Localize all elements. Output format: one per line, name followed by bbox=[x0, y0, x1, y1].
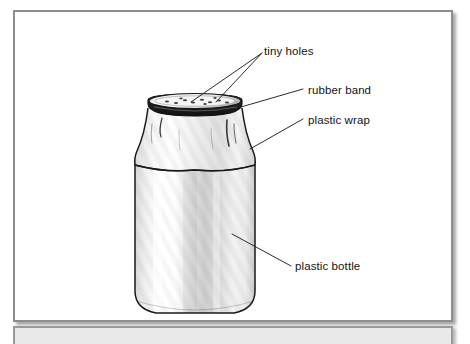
leader-tiny-holes-right bbox=[216, 53, 262, 102]
label-plastic-wrap: plastic wrap bbox=[308, 114, 370, 126]
screenshot-root: tiny holes rubber band plastic wrap plas… bbox=[0, 0, 470, 344]
label-rubber-band: rubber band bbox=[308, 84, 371, 96]
leader-rubber-band bbox=[241, 89, 303, 107]
wrap-top-surface bbox=[149, 94, 241, 109]
leader-plastic-wrap bbox=[250, 119, 303, 149]
bottom-grey-band bbox=[13, 326, 453, 344]
label-tiny-holes: tiny holes bbox=[264, 45, 314, 57]
bottle-diagram-svg bbox=[15, 12, 455, 324]
label-plastic-bottle: plastic bottle bbox=[295, 260, 360, 272]
plastic-wrap-over-neck bbox=[135, 108, 256, 171]
bottle-body bbox=[133, 162, 257, 317]
figure-panel: tiny holes rubber band plastic wrap plas… bbox=[13, 10, 453, 322]
